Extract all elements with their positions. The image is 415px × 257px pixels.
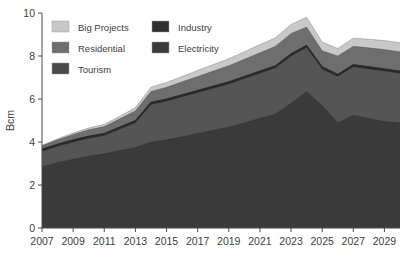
legend-label-tourism: Tourism: [78, 64, 111, 75]
chart-legend: Big ProjectsIndustryResidentialElectrici…: [52, 21, 219, 75]
y-tick-label: 8: [29, 50, 35, 62]
x-tick-label: 2015: [155, 235, 179, 247]
y-axis-ticks: 0246810: [23, 7, 42, 234]
y-tick-label: 4: [29, 136, 35, 148]
legend-label-electricity: Electricity: [178, 43, 219, 54]
x-tick-label: 2019: [217, 235, 241, 247]
x-tick-label: 2023: [279, 235, 303, 247]
y-axis-title: Bcm: [4, 110, 16, 131]
legend-swatch-electricity: [152, 42, 169, 53]
y-axis-title-text: Bcm: [4, 110, 16, 131]
x-tick-label: 2021: [248, 235, 272, 247]
x-tick-label: 2009: [61, 235, 85, 247]
legend-label-industry: Industry: [178, 22, 212, 33]
legend-label-big-projects: Big Projects: [78, 22, 129, 33]
legend-swatch-residential: [52, 42, 69, 53]
legend-swatch-industry: [152, 21, 169, 32]
y-tick-label: 2: [29, 179, 35, 191]
stacked-area-chart: 0246810 20072009201120132015201720192021…: [0, 0, 415, 257]
x-tick-label: 2007: [30, 235, 54, 247]
x-tick-label: 2011: [93, 235, 116, 247]
x-tick-label: 2017: [186, 235, 210, 247]
legend-label-residential: Residential: [78, 43, 125, 54]
y-tick-label: 10: [23, 7, 35, 19]
y-tick-label: 0: [29, 222, 35, 234]
x-tick-label: 2013: [124, 235, 148, 247]
x-tick-label: 2027: [342, 235, 366, 247]
x-tick-label: 2025: [310, 235, 334, 247]
chart-canvas: 0246810 20072009201120132015201720192021…: [0, 0, 415, 257]
x-tick-label: 2029: [373, 235, 397, 247]
legend-swatch-tourism: [52, 63, 69, 74]
legend-swatch-big-projects: [52, 21, 69, 32]
y-tick-label: 6: [29, 93, 35, 105]
x-axis-ticks: 2007200920112013201520172019202120232025…: [30, 228, 396, 247]
